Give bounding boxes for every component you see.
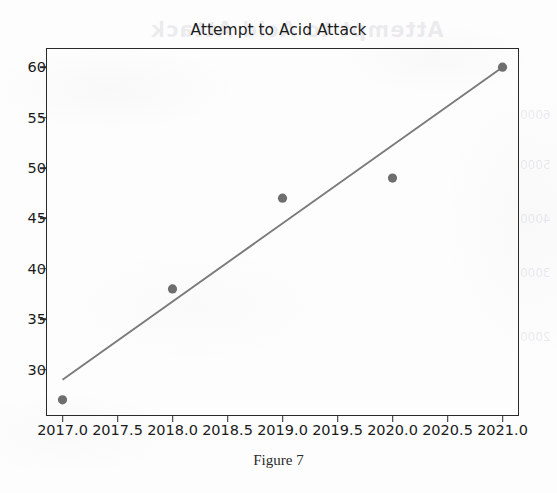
y-tick-mark [40,117,46,119]
data-point [278,194,287,203]
x-tick-label: 2020.5 [422,422,473,438]
x-tick-label: 2018.5 [202,422,253,438]
y-tick-mark [40,369,46,371]
data-point [168,284,177,293]
y-axis: 30354045505560 [0,0,46,493]
trend-line [63,67,503,380]
x-tick-mark [502,416,504,422]
figure-container: Attempt to Acid Attack 30354045505560 20… [0,0,557,493]
x-tick-label: 2020.0 [367,422,418,438]
trend-line-group [63,67,503,380]
x-tick-mark [62,416,64,422]
x-tick-label: 2019.5 [312,422,363,438]
y-tick-mark [40,66,46,68]
data-point [388,173,397,182]
x-tick-mark [447,416,449,422]
data-point [58,395,67,404]
x-tick-label: 2021.0 [477,422,528,438]
figure-caption: Figure 7 [0,452,557,469]
x-tick-mark [282,416,284,422]
data-point [498,63,507,72]
x-tick-label: 2017.5 [92,422,143,438]
x-tick-mark [337,416,339,422]
y-tick-mark [40,318,46,320]
x-tick-label: 2017.0 [37,422,88,438]
y-tick-mark [40,167,46,169]
y-tick-mark [40,268,46,270]
y-tick-mark [40,218,46,220]
x-tick-mark [172,416,174,422]
x-tick-mark [117,416,119,422]
x-tick-label: 2018.0 [147,422,198,438]
plot-canvas [46,48,519,416]
chart-title: Attempt to Acid Attack [0,21,557,39]
x-tick-label: 2019.0 [257,422,308,438]
x-tick-mark [392,416,394,422]
x-tick-mark [227,416,229,422]
data-points-group [58,63,507,405]
